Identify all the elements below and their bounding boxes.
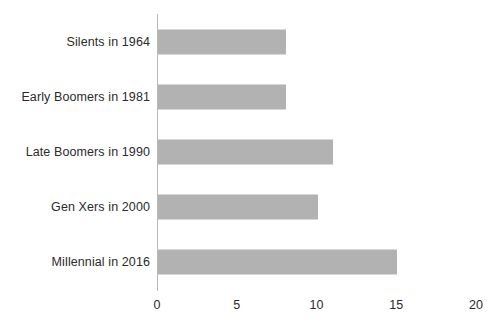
bar-chart: Silents in 1964 Early Boomers in 1981 La… bbox=[0, 0, 502, 331]
bar-category-label: Millennial in 2016 bbox=[0, 255, 150, 269]
bars-layer: Silents in 1964 Early Boomers in 1981 La… bbox=[0, 0, 502, 331]
x-axis: 0 5 10 15 20 bbox=[0, 292, 502, 316]
bar-early-boomers-1981 bbox=[158, 84, 286, 109]
bar-row: Early Boomers in 1981 bbox=[0, 69, 502, 124]
x-tick-label-0: 0 bbox=[137, 298, 177, 312]
bar-late-boomers-1990 bbox=[158, 139, 333, 164]
bar-category-label: Silents in 1964 bbox=[0, 35, 150, 49]
plot-area: Silents in 1964 Early Boomers in 1981 La… bbox=[0, 0, 502, 331]
bar-row: Late Boomers in 1990 bbox=[0, 124, 502, 179]
x-tick-label-5: 5 bbox=[217, 298, 257, 312]
bar-row: Millennial in 2016 bbox=[0, 235, 502, 290]
x-tick-label-15: 15 bbox=[376, 298, 416, 312]
bar-silents-1964 bbox=[158, 29, 286, 54]
bar-row: Gen Xers in 2000 bbox=[0, 180, 502, 235]
bar-category-label: Late Boomers in 1990 bbox=[0, 145, 150, 159]
x-tick-label-10: 10 bbox=[297, 298, 337, 312]
bar-category-label: Gen Xers in 2000 bbox=[0, 200, 150, 214]
bar-gen-xers-2000 bbox=[158, 195, 318, 220]
bar-row: Silents in 1964 bbox=[0, 14, 502, 69]
bar-category-label: Early Boomers in 1981 bbox=[0, 90, 150, 104]
x-tick-label-20: 20 bbox=[456, 298, 496, 312]
bar-millennial-2016 bbox=[158, 250, 397, 275]
